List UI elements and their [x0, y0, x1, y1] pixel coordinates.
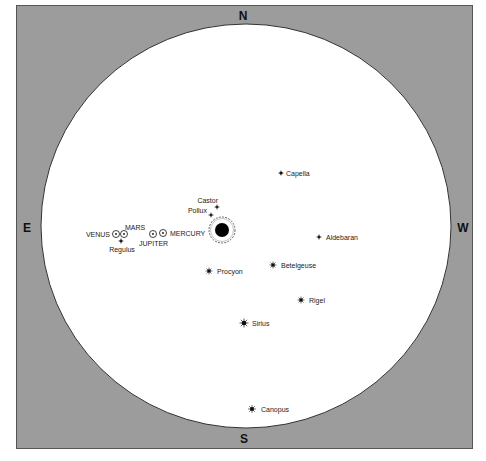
star-label: Procyon — [217, 268, 243, 276]
star-label: Aldebaran — [326, 234, 358, 241]
planet-label: MARS — [125, 224, 146, 231]
planet-venus: VENUS — [86, 231, 120, 239]
planet-label: MERCURY — [170, 230, 206, 237]
planet-label: JUPITER — [139, 240, 168, 247]
star-label: Sirius — [252, 320, 270, 327]
star-label: Canopus — [261, 406, 290, 414]
star-label: Pollux — [188, 207, 208, 214]
sky-map: N S E W VENUS MARS JUPITER MERCURY Casto… — [0, 0, 486, 461]
star-label: Regulus — [109, 246, 135, 254]
planet-label: VENUS — [86, 231, 110, 238]
south-label: S — [240, 432, 248, 446]
star-label: Rigel — [309, 297, 325, 305]
star-label: Castor — [197, 197, 218, 204]
star-label: Capella — [286, 170, 310, 178]
east-label: E — [23, 221, 31, 235]
star-label: Betelgeuse — [281, 262, 316, 270]
star-sirius: Sirius — [240, 319, 271, 328]
sky-dome — [41, 24, 451, 428]
west-label: W — [457, 221, 469, 235]
north-label: N — [239, 9, 248, 23]
